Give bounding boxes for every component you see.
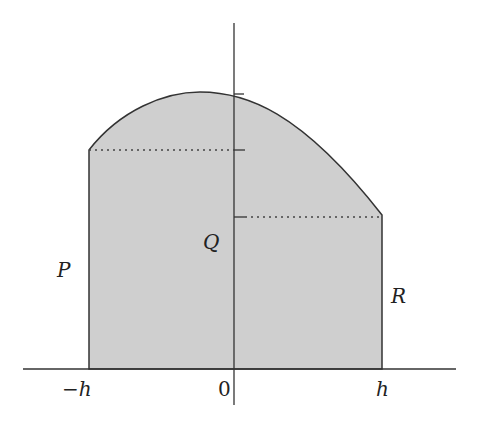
tick-label-minus-h: −h xyxy=(62,377,92,401)
shaded-region xyxy=(89,92,382,369)
diagram-canvas xyxy=(0,0,481,426)
label-Q: Q xyxy=(203,230,219,254)
label-P: P xyxy=(57,258,70,282)
tick-label-h: h xyxy=(376,377,389,401)
label-R: R xyxy=(391,284,406,308)
tick-label-zero: 0 xyxy=(218,377,231,401)
